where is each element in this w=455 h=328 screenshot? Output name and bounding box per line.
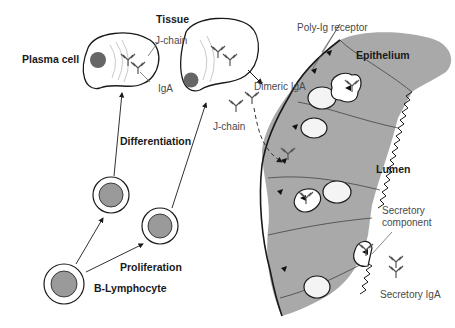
plasma-cell-1 [83, 33, 159, 88]
label-differentiation: Differentiation [120, 136, 191, 147]
label-lumen: Lumen [376, 164, 410, 175]
iga-secretion-diagram: Tissue Plasma cell J-chain IgA Different… [0, 0, 455, 328]
epithelium-layer [260, 32, 451, 316]
label-poly-ig-receptor: Poly-Ig receptor [297, 23, 368, 33]
label-secretory-component-2: component [382, 218, 431, 228]
proliferated-cell-2 [142, 208, 178, 244]
label-secretory-iga: Secretory IgA [380, 290, 441, 300]
label-tissue: Tissue [156, 14, 189, 25]
label-plasma-cell: Plasma cell [22, 54, 79, 65]
label-epithelium: Epithelium [356, 50, 410, 61]
proliferated-cell-1 [93, 177, 129, 213]
label-b-lymphocyte: B-Lymphocyte [94, 283, 167, 294]
plasma-cell-2 [181, 18, 259, 91]
label-j-chain-top: J-chain [155, 36, 187, 46]
label-proliferation: Proliferation [120, 262, 182, 273]
label-j-chain-mid: J-chain [213, 122, 245, 132]
label-dimeric-iga: Dimeric IgA [254, 82, 306, 92]
label-iga: IgA [158, 84, 173, 94]
b-lymphocyte-cell [44, 264, 84, 304]
label-secretory-component-1: Secretory [382, 206, 425, 216]
